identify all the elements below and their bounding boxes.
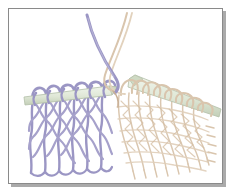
knitting-illustration: [9, 9, 222, 183]
figure-frame: Joining a new yarn color in knitting Kni…: [0, 0, 233, 194]
